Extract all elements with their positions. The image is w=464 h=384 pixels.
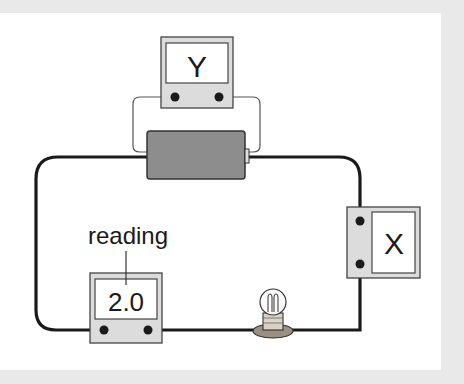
meter-x-terminal-bottom bbox=[356, 260, 365, 269]
meter-x: X bbox=[347, 207, 420, 278]
meter-reading-terminal-right bbox=[144, 326, 153, 335]
main-wire-loop bbox=[36, 157, 360, 330]
circuit-diagram: Y X 2.0 reading bbox=[0, 0, 464, 384]
meter-y-label: Y bbox=[187, 50, 207, 83]
battery bbox=[147, 131, 249, 179]
meter-reading-terminal-left bbox=[100, 326, 109, 335]
meter-y: Y bbox=[161, 37, 233, 108]
meter-x-terminal-top bbox=[356, 217, 365, 226]
meter-x-label: X bbox=[384, 227, 404, 260]
bulb bbox=[253, 289, 293, 338]
meter-y-terminal-left bbox=[171, 93, 180, 102]
meter-y-terminal-right bbox=[215, 93, 224, 102]
meter-reading-display: 2.0 bbox=[108, 287, 144, 317]
reading-label: reading bbox=[88, 222, 168, 249]
